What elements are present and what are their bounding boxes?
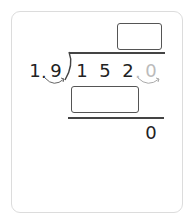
dividend-digit-3: 2 bbox=[122, 62, 134, 80]
remainder: 0 bbox=[145, 124, 157, 142]
divisor-digit-1: 1 bbox=[29, 62, 41, 80]
dividend-digit-1: 1 bbox=[76, 62, 88, 80]
quotient-answer-box[interactable] bbox=[117, 23, 162, 50]
divisor-shift-arrow bbox=[44, 77, 66, 87]
subtraction-line bbox=[68, 117, 164, 119]
product-answer-box[interactable] bbox=[71, 86, 139, 113]
dividend-digit-2: 5 bbox=[99, 62, 111, 80]
dividend-shift-arrow bbox=[137, 77, 161, 87]
division-bar bbox=[69, 52, 165, 54]
